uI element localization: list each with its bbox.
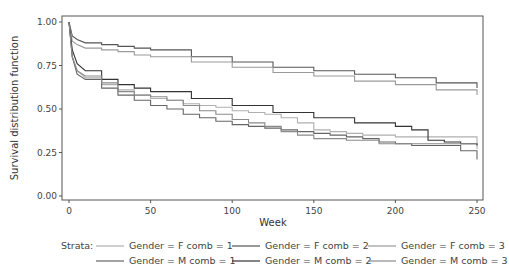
legend: Strata: Gender = F comb = 1Gender = F co… <box>61 240 508 266</box>
legend-title: Strata: <box>61 240 93 251</box>
x-tick-label: 50 <box>145 206 157 216</box>
y-tick-label: 0.25 <box>37 148 57 158</box>
y-tick-label: 0.75 <box>37 61 57 71</box>
x-tick-label: 100 <box>224 206 241 216</box>
legend-item-label: Gender = M comb = 3 <box>401 255 508 266</box>
y-tick-label: 1.00 <box>37 17 57 27</box>
legend-item-label: Gender = M comb = 2 <box>265 255 372 266</box>
y-tick-label: 0.00 <box>37 191 57 201</box>
x-axis-label: Week <box>259 217 287 228</box>
survival-curve <box>69 22 477 159</box>
x-tick-label: 0 <box>66 206 72 216</box>
legend-item-label: Gender = F comb = 2 <box>265 240 369 251</box>
x-tick-label: 200 <box>387 206 404 216</box>
x-tick-label: 250 <box>468 206 485 216</box>
y-axis-label: Survival distribution function <box>9 36 20 181</box>
survival-curve <box>69 22 477 144</box>
survival-curve <box>69 22 477 146</box>
x-tick-label: 150 <box>305 206 322 216</box>
legend-item-label: Gender = F comb = 3 <box>401 240 505 251</box>
y-tick-label: 0.50 <box>37 104 57 114</box>
legend-item-label: Gender = M comb = 1 <box>129 255 236 266</box>
legend-item-label: Gender = F comb = 1 <box>129 240 233 251</box>
survival-curves <box>69 22 477 159</box>
y-axis: 0.000.250.500.751.00 <box>37 17 62 201</box>
survival-chart: 0.000.250.500.751.00 050100150200250 Sur… <box>0 0 509 278</box>
x-axis: 050100150200250 <box>66 200 486 216</box>
survival-curve <box>69 22 477 88</box>
